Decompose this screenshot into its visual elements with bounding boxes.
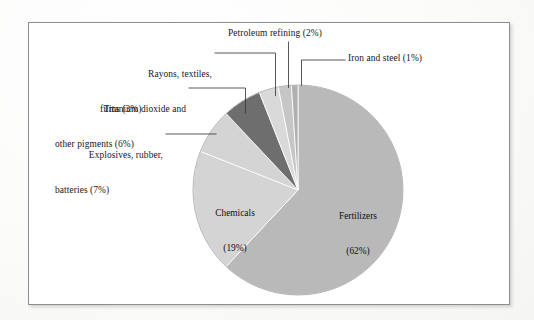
- label-chemicals-line1: Chemicals: [190, 208, 280, 220]
- label-chemicals-line2: (19%): [190, 243, 280, 255]
- leader-line-iron-and-steel: [302, 60, 346, 86]
- label-fertilizers-line1: Fertilizers: [315, 211, 401, 223]
- label-chemicals: Chemicals (19%): [190, 185, 280, 266]
- label-petroleum-refining: Petroleum refining (2%): [228, 28, 322, 40]
- label-explosives-line2: batteries (7%): [55, 185, 163, 197]
- label-explosives-rubber-batteries: Explosives, rubber, batteries (7%): [55, 127, 163, 208]
- label-iron-and-steel: Iron and steel (1%): [348, 53, 422, 65]
- label-rayons-line1: Rayons, textiles,: [100, 69, 212, 81]
- label-titanium-line1: Titanium dioxide and: [55, 104, 186, 116]
- label-fertilizers-line2: (62%): [315, 246, 401, 258]
- label-explosives-line1: Explosives, rubber,: [55, 150, 163, 162]
- label-fertilizers: Fertilizers (62%): [315, 188, 401, 269]
